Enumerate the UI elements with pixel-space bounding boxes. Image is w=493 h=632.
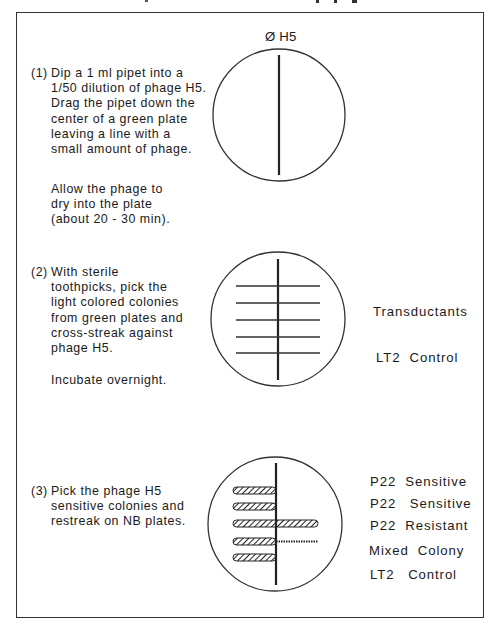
plate-2 (211, 252, 345, 386)
phage-h5-label: Ø H5 (265, 29, 297, 44)
plate-3 (208, 457, 342, 591)
mixed-colony-label: Mixed Colony (369, 543, 464, 558)
p22-resistant-label: P22 Resistant (370, 518, 468, 533)
transductants-label: Transductants (373, 304, 468, 319)
lt2-control-label-2: LT2 Control (370, 567, 457, 582)
plate-1 (213, 49, 345, 181)
p22-sensitive-label-1: P22 Sensitive (370, 474, 467, 489)
lt2-control-label: LT2 Control (376, 350, 458, 365)
p22-sensitive-label-2: P22 Sensitive (370, 496, 471, 511)
